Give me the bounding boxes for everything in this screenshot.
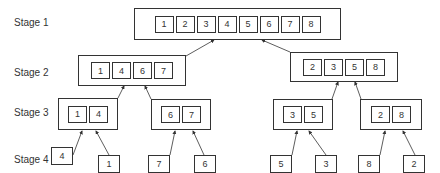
stage-4-label: Stage 4 <box>14 154 48 165</box>
stage-4-item: 2 <box>403 155 425 173</box>
cell: 2 <box>371 106 390 123</box>
cell: 4 <box>112 62 131 79</box>
stage-3-group-c: 3 5 <box>273 99 333 130</box>
stage-3-group-d: 2 8 <box>360 99 422 130</box>
cell: 8 <box>392 106 411 123</box>
cell: 5 <box>239 16 258 33</box>
cell: 3 <box>197 16 216 33</box>
stage-2-right-group: 2 3 5 8 <box>290 52 398 82</box>
stage-4-item: 4 <box>51 147 73 165</box>
stage-3-group-b: 6 7 <box>151 99 211 130</box>
cell: 5 <box>304 106 323 123</box>
stage-3-label: Stage 3 <box>14 107 48 118</box>
cell: 1 <box>68 106 87 123</box>
stage-4-item: 7 <box>148 155 170 173</box>
cell: 6 <box>161 106 180 123</box>
stage-2-label: Stage 2 <box>14 67 48 78</box>
cell: 4 <box>218 16 237 33</box>
cell: 7 <box>281 16 300 33</box>
cell: 3 <box>324 59 343 76</box>
cell: 2 <box>176 16 195 33</box>
stage-1-label: Stage 1 <box>14 17 48 28</box>
stage-1-group: 1 2 3 4 5 6 7 8 <box>134 8 341 40</box>
cell: 1 <box>91 62 110 79</box>
stage-4-item: 6 <box>194 155 216 173</box>
cell: 4 <box>89 106 108 123</box>
cell: 5 <box>345 59 364 76</box>
cell: 6 <box>133 62 152 79</box>
stage-4-item: 1 <box>98 155 120 173</box>
stage-4-item: 3 <box>315 155 337 173</box>
stage-3-group-a: 1 4 <box>58 98 118 130</box>
cell: 8 <box>302 16 321 33</box>
stage-2-left-group: 1 4 6 7 <box>78 55 186 86</box>
cell: 6 <box>260 16 279 33</box>
cell: 3 <box>283 106 302 123</box>
cell: 1 <box>155 16 174 33</box>
cell: 2 <box>303 59 322 76</box>
stage-4-item: 8 <box>358 155 380 173</box>
cell: 7 <box>182 106 201 123</box>
stage-4-item: 5 <box>270 155 292 173</box>
cell: 8 <box>366 59 385 76</box>
cell: 7 <box>154 62 173 79</box>
